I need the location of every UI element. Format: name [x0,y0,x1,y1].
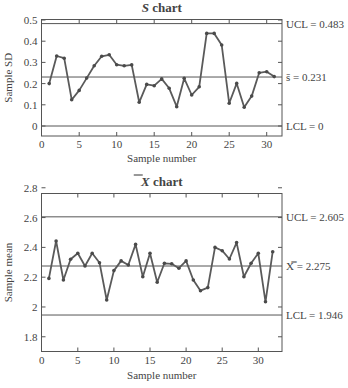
data-point [265,70,269,74]
x-tick-label: 5 [75,354,81,366]
data-point [257,252,261,256]
data-point [170,262,174,266]
data-point [184,259,188,263]
x-axis-label: Sample number [127,152,197,164]
y-tick-label: 0.4 [24,35,38,47]
data-point [141,275,145,279]
chart-title: X chart [140,174,183,189]
data-point [228,257,232,261]
data-point [175,105,179,109]
data-point [47,82,51,86]
y-tick-label: 0.1 [24,99,38,111]
title-symbol: X [140,174,150,189]
data-point [62,278,66,282]
data-point [206,286,210,290]
data-point [130,63,134,67]
data-point [115,63,119,67]
data-point [249,262,253,266]
x-tick-label: 0 [39,138,45,150]
data-point [54,239,58,243]
y-tick-label: 0 [32,120,38,132]
data-point [155,280,159,284]
data-point [220,43,224,47]
data-point [122,64,126,68]
data-point [163,262,167,266]
x-tick-label: 20 [186,138,198,150]
control-label-ucl: UCL = 0.483 [286,18,345,30]
data-point [235,82,239,86]
data-point [69,258,73,262]
x-tick-label: 25 [217,354,229,366]
data-point [85,76,89,80]
x-tick-label: 25 [224,138,236,150]
data-point [62,56,66,60]
data-point [192,278,196,282]
data-point [272,75,276,79]
y-tick-label: 1.8 [24,331,38,343]
title-symbol: S [142,0,149,15]
y-axis-label: Sample SD [2,53,14,103]
data-point [167,87,171,91]
data-point [127,263,131,267]
data-point [47,277,51,281]
data-point [148,252,152,256]
x-tick-label: 0 [39,354,45,366]
y-tick-label: 2.4 [24,241,38,253]
x-tick-label: 10 [111,138,123,150]
data-point [235,241,239,245]
data-point [55,54,59,58]
control-label-center: X̿ = 2.275 [286,260,331,272]
x-axis-label: Sample number [127,369,197,381]
title-text: chart [150,174,184,189]
data-point [76,252,80,256]
x-tick-label: 15 [145,354,157,366]
xbar-chart: X chart1.822.22.42.62.8051015202530Sampl… [2,174,345,381]
data-point [250,94,254,98]
data-point [77,89,81,93]
data-point [264,300,268,304]
y-tick-label: 2 [32,301,38,313]
control-label-lcl: LCL = 0 [286,120,324,132]
data-point [100,55,104,59]
data-point [92,64,96,68]
data-point [213,246,217,250]
x-tick-label: 15 [149,138,161,150]
data-point [134,243,138,247]
chart-title: S chart [142,0,183,15]
data-point [98,261,102,265]
title-text: chart [149,0,183,15]
x-tick-label: 30 [261,138,273,150]
y-tick-label: 0.5 [24,14,38,26]
control-charts: S chart00.10.20.30.40.5051015202530Sampl… [0,0,348,388]
x-tick-label: 10 [108,354,120,366]
data-point [152,84,156,88]
control-label-ucl: UCL = 2.605 [286,211,345,223]
data-point [199,289,203,293]
data-point [190,93,194,97]
data-point [83,264,87,268]
data-point [112,269,116,273]
data-point [205,32,209,36]
data-point [271,250,275,254]
y-axis-label: Sample mean [2,242,14,302]
data-point [119,259,123,263]
control-label-center: s̄ = 0.231 [286,71,327,83]
data-line [49,241,273,302]
data-point [177,266,181,270]
data-point [212,32,216,36]
data-point [197,85,201,89]
data-point [90,252,94,256]
data-point [107,53,111,57]
x-tick-label: 30 [253,354,265,366]
control-label-lcl: LCL = 1.946 [286,309,343,321]
x-tick-label: 20 [181,354,193,366]
data-line [49,33,274,107]
y-tick-label: 2.2 [24,271,38,283]
data-point [137,101,141,105]
y-tick-label: 0.3 [24,56,38,68]
y-tick-label: 2.6 [24,212,38,224]
y-tick-label: 0.2 [24,78,38,90]
data-point [242,106,246,110]
y-tick-label: 2.8 [24,182,38,194]
data-point [145,83,149,87]
